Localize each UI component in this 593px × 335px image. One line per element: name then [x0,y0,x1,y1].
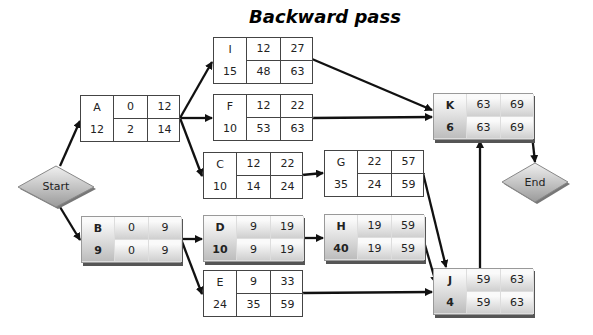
late-finish: 59 [392,238,425,261]
edge-start-b [60,207,80,240]
edge-i-k [312,59,432,110]
activity-info: F10 [214,95,247,140]
activity-info: G35 [325,151,358,196]
early-finish: 22 [281,95,314,118]
activity-name: G [337,156,346,169]
activity-info: A12 [81,96,114,141]
early-start: 9 [237,216,271,239]
late-start: 9 [237,239,271,262]
duration: 40 [333,242,348,255]
early-start: 9 [237,271,271,294]
late-finish: 63 [281,118,314,141]
late-start: 35 [237,294,271,317]
duration: 10 [212,243,227,256]
early-start: 0 [115,217,149,240]
duration: 35 [334,178,348,191]
late-finish: 59 [271,294,304,317]
start-node[interactable]: Start [16,165,96,209]
activity-info: I15 [214,38,247,83]
duration: 10 [223,122,237,135]
late-start: 53 [247,118,281,141]
late-start: 48 [247,61,281,84]
early-start: 59 [467,269,501,292]
late-finish: 9 [149,240,182,263]
early-start: 12 [247,95,281,118]
edge-c-g [302,173,323,175]
end-node[interactable]: End [500,162,570,204]
duration: 6 [446,121,454,134]
activity-node-g[interactable]: 22 G35 57 24 59 [324,150,424,197]
activity-node-d[interactable]: 9 D10 19 9 19 [203,215,303,262]
late-finish: 24 [271,176,304,199]
early-finish: 12 [148,96,181,119]
late-finish: 59 [392,174,425,197]
late-start: 59 [467,292,501,315]
activity-node-e[interactable]: 9 E24 33 35 59 [203,270,303,317]
activity-node-h[interactable]: 19 H40 59 19 59 [324,214,424,261]
end-label: End [500,176,570,189]
duration: 24 [213,298,227,311]
duration: 12 [90,123,104,136]
activity-node-i[interactable]: 12 I15 27 48 63 [213,37,313,84]
activity-info: C10 [204,153,237,198]
edge-start-a [60,121,80,166]
late-start: 14 [237,176,271,199]
early-finish: 57 [392,151,425,174]
activity-info: K6 [434,94,467,139]
activity-node-j[interactable]: 59 J4 63 59 63 [433,268,533,315]
duration: 4 [446,296,454,309]
late-start: 2 [114,119,148,142]
activity-info: D10 [204,216,237,261]
duration: 15 [223,65,237,78]
activity-node-k[interactable]: 63 K6 69 63 69 [433,93,533,140]
activity-name: E [217,276,224,289]
start-label: Start [16,180,96,193]
activity-name: C [216,158,224,171]
activity-name: I [228,43,231,56]
activity-info: E24 [204,271,237,316]
activity-node-f[interactable]: 12 F10 22 53 63 [213,94,313,141]
activity-name: B [94,222,102,235]
edge-a-c [180,118,202,176]
activity-node-b[interactable]: 0 B9 9 0 9 [81,216,181,263]
early-finish: 27 [281,38,314,61]
edge-b-e [181,239,202,294]
activity-name: D [215,221,224,234]
early-start: 12 [247,38,281,61]
early-finish: 59 [392,215,425,238]
early-finish: 9 [149,217,182,240]
duration: 9 [94,244,102,257]
edge-f-k [312,117,432,118]
activity-name: K [446,99,455,112]
edge-e-j [302,292,432,293]
early-start: 0 [114,96,148,119]
late-start: 63 [467,117,501,140]
early-finish: 19 [271,216,304,239]
early-start: 22 [358,151,392,174]
activity-name: F [227,100,233,113]
duration: 10 [213,180,227,193]
early-finish: 63 [501,269,534,292]
late-finish: 19 [271,239,304,262]
early-finish: 22 [271,153,304,176]
activity-node-a[interactable]: 0 A12 12 2 14 [80,95,180,142]
early-finish: 69 [501,94,534,117]
early-start: 19 [358,215,392,238]
early-start: 12 [237,153,271,176]
early-finish: 33 [271,271,304,294]
activity-name: H [336,220,345,233]
late-finish: 63 [281,61,314,84]
late-start: 24 [358,174,392,197]
activity-info: H40 [325,215,358,260]
late-start: 0 [115,240,149,263]
late-finish: 14 [148,119,181,142]
activity-info: J4 [434,269,467,314]
activity-name: J [448,274,452,287]
early-start: 63 [467,94,501,117]
late-finish: 69 [501,117,534,140]
activity-info: B9 [82,217,115,262]
activity-node-c[interactable]: 12 C10 22 14 24 [203,152,303,199]
late-finish: 63 [501,292,534,315]
late-start: 19 [358,238,392,261]
activity-name: A [93,101,101,114]
